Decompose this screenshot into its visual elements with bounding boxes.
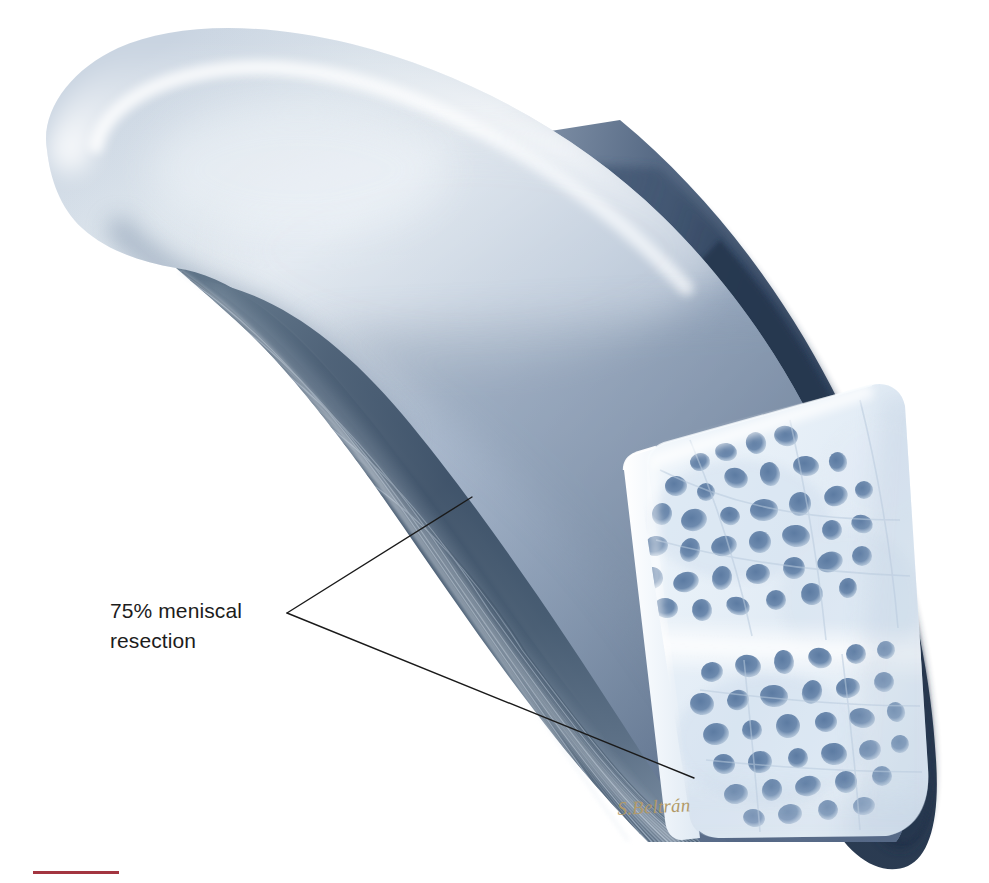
callout-label: 75% meniscal resection: [110, 596, 320, 656]
bottom-rule: [33, 871, 119, 874]
artist-signature: S.Beltrán: [617, 794, 691, 820]
meniscal-resection-figure: 75% meniscal resection S.Beltrán: [0, 0, 989, 883]
meniscus-illustration: [0, 0, 989, 883]
bone-cross-section: [619, 384, 951, 850]
